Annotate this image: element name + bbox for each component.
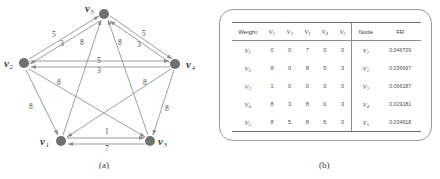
weight-fr-table: Weight V1 V2 V3 V4 V5 Node FR V1 0 0 <box>232 22 421 132</box>
edge-v2-v3 <box>29 69 145 137</box>
cell-fr-v3: 0.066187 <box>379 77 421 95</box>
col-header-v1: V1 <box>263 23 281 41</box>
edge-weight-v5-v4: 5 <box>142 30 146 38</box>
cell-fr-v4: 0.029181 <box>379 95 421 113</box>
col-header-v2: V2 <box>281 23 299 41</box>
caption-panel-b: (b) <box>319 160 330 170</box>
table-row: V2 8 0 8 5 3 V2 0.036697 <box>232 59 421 77</box>
cell-w-v2-v3: 8 <box>298 59 316 77</box>
cell-w-v3-v1: 1 <box>263 77 281 95</box>
node-label-v4: v4 <box>186 59 194 70</box>
edge-weight-v2-v3: 8 <box>57 79 61 87</box>
cell-node-v2: V2 <box>352 59 380 77</box>
cell-w-v5-v1: 8 <box>263 113 281 132</box>
table-header-row: Weight V1 V2 V3 V4 V5 Node FR <box>232 23 421 41</box>
cell-w-v1-v4: 0 <box>316 41 334 60</box>
edge-weight-v3-v1: 7 <box>105 145 109 153</box>
node-label-v5: v5 <box>85 3 93 14</box>
figure-root: v1 v2 v3 v4 v5 5 3 5 3 5 3 1 7 8 8 8 8 8… <box>0 0 440 179</box>
cell-w-v5-v4: 5 <box>316 113 334 132</box>
row-label-v2: V2 <box>232 59 263 77</box>
cell-w-v4-v3: 8 <box>298 95 316 113</box>
col-header-node: Node <box>352 23 380 41</box>
cell-w-v4-v5: 3 <box>334 95 352 113</box>
edge-v4-v3 <box>153 70 174 135</box>
cell-w-v1-v2: 0 <box>281 41 299 60</box>
cell-w-v2-v2: 0 <box>281 59 299 77</box>
node-label-v1: v1 <box>40 136 48 147</box>
col-header-v3: V3 <box>298 23 316 41</box>
col-header-fr: FR <box>379 23 421 41</box>
cell-w-v2-v5: 3 <box>334 59 352 77</box>
table-wrapper: Weight V1 V2 V3 V4 V5 Node FR V1 0 0 <box>232 22 421 130</box>
cell-fr-v5: 0.034618 <box>379 113 421 132</box>
table-row: V4 8 3 8 0 3 V4 0.029181 <box>232 95 421 113</box>
edge-weight-v4-v2: 3 <box>97 67 101 75</box>
cell-w-v5-v3: 8 <box>298 113 316 132</box>
cell-w-v3-v5: 0 <box>334 77 352 95</box>
cell-w-v3-v4: 0 <box>316 77 334 95</box>
edge-weight-v1-v3: 1 <box>105 128 109 136</box>
col-header-v5: V5 <box>334 23 352 41</box>
cell-node-v1: V1 <box>352 41 380 60</box>
panel-a-graph: v1 v2 v3 v4 v5 5 3 5 3 5 3 1 7 8 8 8 8 8… <box>0 0 215 179</box>
cell-w-v4-v1: 8 <box>263 95 281 113</box>
table-body: V1 0 0 7 0 0 V1 0.046709 V2 8 0 8 <box>232 41 421 132</box>
cell-node-v4: V4 <box>352 95 380 113</box>
cell-w-v5-v2: 5 <box>281 113 299 132</box>
cell-w-v1-v3: 7 <box>298 41 316 60</box>
node-label-v3: v3 <box>158 136 166 147</box>
edge-weight-v3-v5: 8 <box>118 39 122 47</box>
cell-w-v5-v5: 0 <box>334 113 352 132</box>
cell-fr-v2: 0.036697 <box>379 59 421 77</box>
table-head: Weight V1 V2 V3 V4 V5 Node FR <box>232 23 421 41</box>
edge-weight-v2-v1: 8 <box>29 103 33 111</box>
table-row: V3 1 0 0 0 0 V3 0.066187 <box>232 77 421 95</box>
node-v5 <box>99 9 109 19</box>
edge-v2-v5 <box>29 16 99 59</box>
cell-w-v3-v2: 0 <box>281 77 299 95</box>
cell-node-v3: V3 <box>352 77 380 95</box>
cell-w-v2-v1: 8 <box>263 59 281 77</box>
row-label-v1: V1 <box>232 41 263 60</box>
table-row: V1 0 0 7 0 0 V1 0.046709 <box>232 41 421 60</box>
edge-weight-v2-v5: 5 <box>52 31 56 39</box>
edge-v5-v2 <box>30 21 100 64</box>
row-label-v4: V4 <box>232 95 263 113</box>
cell-w-v4-v2: 3 <box>281 95 299 113</box>
edge-weight-v4-v5: 3 <box>137 41 141 49</box>
cell-w-v1-v5: 0 <box>334 41 352 60</box>
caption-panel-a: (a) <box>99 160 109 170</box>
edge-weight-v4-v3: 8 <box>165 105 169 113</box>
node-v3 <box>145 136 155 146</box>
node-v4 <box>170 59 180 69</box>
cell-w-v2-v4: 5 <box>316 59 334 77</box>
row-label-v5: V5 <box>232 113 263 132</box>
table-row: V5 8 5 8 5 0 V5 0.034618 <box>232 113 421 132</box>
node-v1 <box>56 136 66 146</box>
edge-weight-v4-v1: 8 <box>143 79 147 87</box>
edge-weight-v2-v4: 5 <box>97 57 101 65</box>
col-header-v4: V4 <box>316 23 334 41</box>
cell-fr-v1: 0.046709 <box>379 41 421 60</box>
cell-node-v5: V5 <box>352 113 380 132</box>
node-v2 <box>19 58 29 68</box>
row-label-v3: V3 <box>232 77 263 95</box>
cell-w-v1-v1: 0 <box>263 41 281 60</box>
edge-weight-v1-v5: 8 <box>80 39 84 47</box>
cell-w-v4-v4: 0 <box>316 95 334 113</box>
panel-b-table-card: Weight V1 V2 V3 V4 V5 Node FR V1 0 0 <box>219 9 432 141</box>
cell-w-v3-v3: 0 <box>298 77 316 95</box>
edge-weight-v5-v2: 3 <box>60 40 64 48</box>
col-header-weight: Weight <box>232 23 263 41</box>
node-label-v2: v2 <box>4 58 12 69</box>
